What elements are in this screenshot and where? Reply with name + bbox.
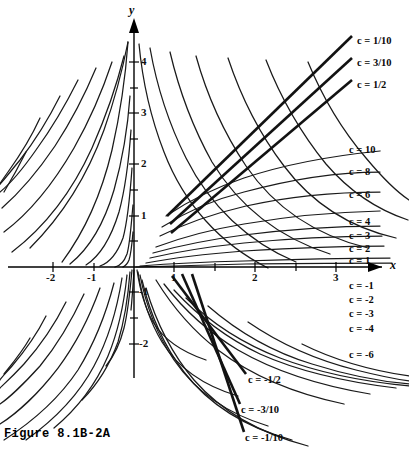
contour-label-c-2: c = 2 <box>349 244 370 255</box>
y-tick-label-1: 1 <box>141 210 147 221</box>
contour-label-c-1-10: c = 1/10 <box>357 36 392 47</box>
y-tick-label-2: 2 <box>141 158 147 169</box>
level-curves-plot <box>0 0 409 452</box>
x-tick-label-3: 3 <box>333 272 339 283</box>
straight-lines-negative-c <box>172 274 246 432</box>
x-tick-label-1: 1 <box>171 272 177 283</box>
contour-label-c-neg-1-10: c = -1/10 <box>245 433 283 444</box>
contour-label-c-10: c = 10 <box>349 145 375 156</box>
y-axis-arrow <box>129 18 139 33</box>
contour-label-c-neg4: c = -4 <box>349 324 374 335</box>
contour-label-c-neg3: c = -3 <box>349 309 374 320</box>
contour-label-c-3: c = 3 <box>349 231 370 242</box>
contour-label-c-neg2: c = -2 <box>349 295 374 306</box>
contour-label-c-neg6: c = -6 <box>349 350 374 361</box>
contour-label-c-neg-3-10: c = -3/10 <box>241 405 279 416</box>
hyperbola-curves-quadrant-3 <box>0 270 134 440</box>
y-tick-label-neg1: -1 <box>139 286 148 297</box>
contour-label-c-4: c = 4 <box>349 217 370 228</box>
contour-label-c-8: c = 8 <box>349 167 370 178</box>
contour-label-c-neg1: c = -1 <box>349 281 374 292</box>
contour-label-c-3-10: c = 3/10 <box>357 58 392 69</box>
contour-label-c-neg-1-2: c = -1/2 <box>248 375 281 386</box>
contour-label-c-6: c = 6 <box>349 190 370 201</box>
figure-container: y x -2 -1 1 2 3 4 3 2 1 -1 -2 c = 1/10 c… <box>0 0 409 452</box>
x-tick-label-neg1: -1 <box>87 272 96 283</box>
line-c-neg-1-10 <box>192 274 244 432</box>
y-tick-label-3: 3 <box>141 107 147 118</box>
figure-caption: Figure 8.1B-2A <box>4 427 110 441</box>
x-tick-label-neg2: -2 <box>46 272 55 283</box>
y-axis-label: y <box>129 4 134 16</box>
y-tick-label-neg2: -2 <box>139 338 148 349</box>
contour-label-c-1: c = 1 <box>349 256 370 267</box>
line-c-1-2 <box>171 80 352 233</box>
contour-label-c-1-2: c = 1/2 <box>357 80 386 91</box>
x-tick-label-2: 2 <box>252 272 258 283</box>
x-axis-label: x <box>390 259 396 271</box>
y-tick-label-4: 4 <box>141 56 147 67</box>
line-c-neg-3-10 <box>182 274 240 404</box>
line-c-3-10 <box>170 58 352 224</box>
hyperbola-curves-quadrant-2 <box>0 42 133 267</box>
